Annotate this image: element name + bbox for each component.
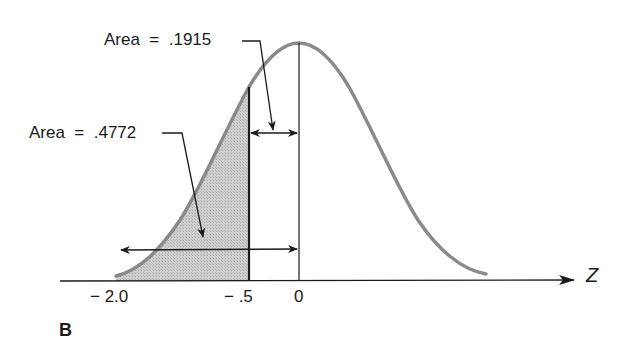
tick-minus-2: − 2.0: [90, 287, 128, 307]
tick-zero: 0: [294, 287, 303, 307]
shaded-area: [116, 87, 249, 281]
area-4772-double-arrow: [121, 249, 297, 250]
panel-label: B: [59, 320, 72, 341]
area-1915-label: Area = .1915: [104, 30, 211, 50]
area-4772-label: Area = .4772: [29, 123, 136, 143]
z-axis-label: Z: [586, 264, 598, 287]
tick-minus-half: − .5: [224, 287, 253, 307]
